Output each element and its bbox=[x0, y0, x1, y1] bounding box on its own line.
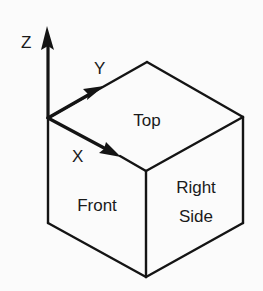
x-arrow-icon bbox=[99, 142, 121, 157]
top-face-label: Top bbox=[133, 111, 160, 130]
x-axis bbox=[48, 118, 106, 149]
axes bbox=[41, 26, 121, 157]
top-face-back-right-edge bbox=[147, 62, 243, 117]
right-bottom-edge bbox=[146, 223, 243, 277]
z-axis-label: Z bbox=[21, 33, 31, 52]
cube bbox=[48, 62, 243, 277]
front-face-label: Front bbox=[77, 196, 117, 215]
right-side-face-label-line1: Right bbox=[176, 178, 216, 197]
front-bottom-edge bbox=[48, 223, 146, 277]
y-axis bbox=[48, 94, 90, 118]
isometric-cube-diagram: Z Y X Top Front Right Side bbox=[0, 0, 263, 291]
top-face-front-left-edge bbox=[120, 156, 146, 171]
y-axis-label: Y bbox=[94, 59, 105, 78]
right-side-face-label-line2: Side bbox=[179, 207, 213, 226]
x-axis-label: X bbox=[72, 147, 83, 166]
